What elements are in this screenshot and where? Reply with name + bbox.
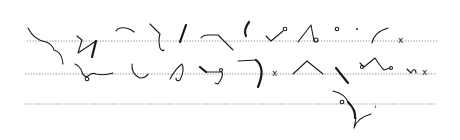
outline-tick-circle	[266, 31, 283, 41]
outline-tick-curl	[200, 67, 206, 72]
outline-descender-circle	[340, 100, 344, 104]
outline-c-hook	[132, 64, 148, 78]
x-mark-3: x	[422, 67, 428, 77]
dot-mark	[356, 28, 358, 30]
outline-small-n	[407, 69, 416, 73]
outline-circle-a	[283, 27, 287, 31]
outline-wavy-curve	[28, 28, 63, 64]
outline-triangle	[298, 25, 314, 42]
outline-loop-wave	[75, 64, 113, 77]
outline-row-3: ,	[333, 91, 377, 128]
outline-descender-thick	[348, 102, 355, 118]
x-mark-2: x	[272, 68, 278, 78]
outline-curve-loop	[150, 24, 164, 51]
outline-hook-small	[116, 28, 134, 32]
outline-long-arc	[238, 60, 256, 61]
outline-loop-hook-circle-b	[390, 67, 393, 70]
outline-slash	[180, 25, 186, 42]
outline-ess	[170, 64, 183, 81]
shorthand-page: x x x ,	[0, 0, 460, 140]
outline-hook-line	[201, 35, 233, 50]
dot-circle	[335, 27, 339, 31]
outline-caret	[293, 61, 323, 74]
outline-loop-hook	[360, 58, 390, 70]
outline-row-1: x	[28, 22, 404, 64]
outline-descender-tail	[354, 114, 371, 128]
comma-mark: ,	[374, 99, 377, 109]
outline-tick-curl-tail	[206, 72, 223, 84]
outline-loop-circle	[85, 77, 89, 81]
outline-tick-circle-2	[220, 69, 223, 72]
outline-long-arc-thick	[256, 60, 262, 87]
x-mark-1: x	[398, 35, 404, 45]
outline-loop-hook-circle-a	[361, 66, 364, 69]
outline-thick-diagonal	[336, 68, 348, 83]
outline-row-2: x x	[75, 58, 428, 87]
outline-thick-curve	[245, 22, 249, 36]
